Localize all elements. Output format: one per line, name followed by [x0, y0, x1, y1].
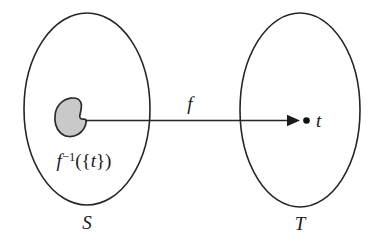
function-label: f [187, 93, 195, 114]
element-t-dot [303, 117, 310, 124]
preimage-label: f−1({t}) [57, 150, 112, 172]
preimage-label-open-brace: ({ [75, 150, 90, 172]
preimage-blob-shape [55, 98, 86, 137]
preimage-label-exponent: −1 [62, 150, 75, 164]
domain-set-ellipse [24, 13, 150, 205]
function-arrow-head [287, 115, 300, 126]
codomain-set-label: T [295, 213, 307, 234]
domain-set-label: S [82, 212, 92, 233]
preimage-label-close-brace: }) [96, 150, 111, 172]
element-label: t [316, 110, 322, 131]
codomain-set-ellipse [240, 13, 360, 207]
set-mapping-diagram: f t S T f−1({t}) [0, 0, 382, 239]
